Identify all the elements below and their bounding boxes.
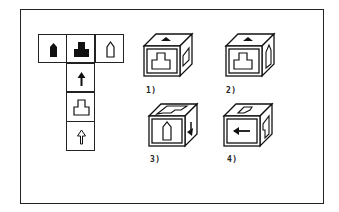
net-cell-top-center — [66, 34, 95, 63]
net-cell-row2 — [66, 63, 95, 92]
net-cell-row4 — [66, 121, 95, 151]
option-1-cube[interactable] — [140, 30, 196, 80]
option-4-cube[interactable] — [220, 100, 276, 150]
option-2-cube[interactable] — [222, 30, 278, 80]
net-cell-top-right — [95, 34, 124, 63]
option-2-label[interactable]: 2) — [226, 86, 237, 95]
net-cell-top-left — [38, 34, 67, 63]
option-1-label[interactable]: 1) — [146, 86, 157, 95]
option-3-cube[interactable] — [145, 100, 201, 150]
filled-pillar-icon — [39, 35, 68, 64]
outline-up-arrow-icon — [67, 122, 96, 152]
outline-stepped-block-icon — [67, 93, 96, 123]
option-3-label[interactable]: 3) — [150, 155, 161, 164]
filled-up-arrow-icon — [67, 64, 96, 93]
net-cell-row3 — [66, 92, 95, 122]
filled-stepped-block-icon — [67, 35, 96, 64]
outline-pillar-icon — [96, 35, 125, 64]
option-4-label[interactable]: 4) — [227, 155, 238, 164]
